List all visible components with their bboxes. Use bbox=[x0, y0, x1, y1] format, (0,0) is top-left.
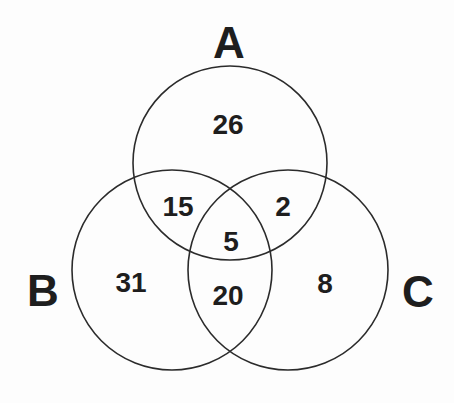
region-c-only: 8 bbox=[317, 268, 333, 299]
set-a-label: A bbox=[213, 18, 245, 67]
region-a-b: 15 bbox=[162, 191, 193, 222]
region-b-c: 20 bbox=[212, 280, 243, 311]
region-a-b-c: 5 bbox=[223, 226, 239, 257]
set-b-label: B bbox=[27, 266, 59, 315]
set-c-label: C bbox=[402, 267, 434, 316]
region-b-only: 31 bbox=[115, 267, 146, 298]
region-a-only: 26 bbox=[212, 109, 243, 140]
region-a-c: 2 bbox=[275, 191, 291, 222]
venn-diagram: A B C 26 15 2 5 31 20 8 bbox=[0, 0, 454, 403]
